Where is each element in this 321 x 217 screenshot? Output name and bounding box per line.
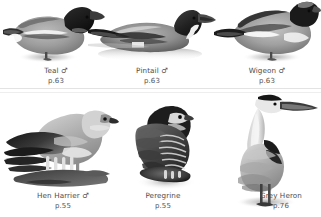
male-symbol-wigeon: ♂ — [279, 66, 286, 75]
pintail-duck-illustration — [88, 4, 216, 66]
species-page-pintail: p.63 — [122, 77, 182, 85]
species-caption-pintail: Pintail ♂ p.63 — [122, 67, 182, 85]
species-name-teal: Teal ♂ — [26, 67, 86, 76]
species-page-grey-heron: p.76 — [248, 202, 314, 210]
hen-harrier-illustration — [4, 98, 120, 190]
species-page-peregrine: p.55 — [132, 202, 194, 210]
male-symbol-hen-harrier: ♂ — [82, 191, 89, 200]
species-page-wigeon: p.63 — [236, 77, 298, 85]
row-divider-upper — [0, 88, 321, 89]
bird-species-plate: Teal ♂ p.63 — [0, 0, 321, 217]
species-caption-hen-harrier: Hen Harrier ♂ p.55 — [28, 192, 98, 210]
species-name-peregrine: Peregrine — [132, 192, 194, 201]
wigeon-duck-illustration — [214, 0, 321, 64]
species-caption-grey-heron: Grey Heron p.76 — [248, 192, 314, 210]
species-name-grey-heron: Grey Heron — [248, 192, 314, 201]
species-name-wigeon: Wigeon ♂ — [236, 67, 298, 76]
species-name-hen-harrier: Hen Harrier ♂ — [28, 192, 98, 201]
species-caption-peregrine: Peregrine p.55 — [132, 192, 194, 210]
species-name-pintail: Pintail ♂ — [122, 67, 182, 76]
species-caption-teal: Teal ♂ p.63 — [26, 67, 86, 85]
peregrine-falcon-illustration — [126, 98, 206, 190]
species-page-hen-harrier: p.55 — [28, 202, 98, 210]
species-page-teal: p.63 — [26, 77, 86, 85]
male-symbol-teal: ♂ — [61, 66, 68, 75]
species-caption-wigeon: Wigeon ♂ p.63 — [236, 67, 298, 85]
male-symbol-pintail: ♂ — [161, 66, 168, 75]
